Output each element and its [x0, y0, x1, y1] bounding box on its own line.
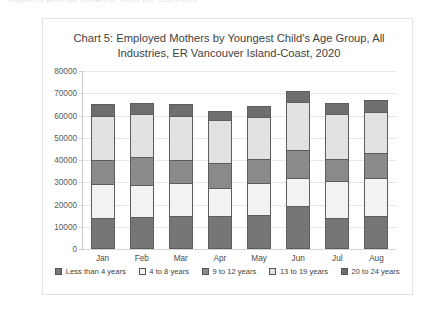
bar-segment[interactable]: [91, 218, 115, 249]
y-axis-tick-label: 0: [72, 245, 77, 254]
bar-segment[interactable]: [130, 103, 154, 114]
bar-jun[interactable]: Jun: [286, 91, 310, 249]
legend-label: 20 to 24 years: [352, 267, 400, 276]
legend-item[interactable]: 20 to 24 years: [341, 267, 400, 276]
legend-swatch-icon: [341, 268, 348, 275]
bar-segment[interactable]: [208, 216, 232, 249]
bar-segment[interactable]: [169, 160, 193, 183]
bar-segment[interactable]: [169, 116, 193, 161]
gridline: [83, 71, 396, 72]
bar-segment[interactable]: [208, 111, 232, 120]
bar-feb[interactable]: Feb: [130, 103, 154, 249]
y-axis-tick-label: 80000: [54, 67, 77, 76]
cut-off-page-header: Mothers with no children from the Statis…: [0, 0, 425, 11]
bar-segment[interactable]: [364, 178, 388, 216]
y-tick-mark: [79, 71, 83, 72]
bar-segment[interactable]: [169, 216, 193, 249]
bar-segment[interactable]: [364, 216, 388, 249]
y-axis-tick-label: 70000: [54, 89, 77, 98]
bar-segment[interactable]: [91, 104, 115, 115]
gridline: [83, 93, 396, 94]
legend-swatch-icon: [269, 268, 276, 275]
bar-segment[interactable]: [286, 102, 310, 150]
bar-jan[interactable]: Jan: [91, 104, 115, 249]
bar-segment[interactable]: [169, 183, 193, 215]
bar-mar[interactable]: Mar: [169, 104, 193, 249]
bar-segment[interactable]: [325, 181, 349, 218]
legend-swatch-icon: [202, 268, 209, 275]
chart-legend: Less than 4 years4 to 8 years9 to 12 yea…: [43, 267, 412, 276]
x-axis-label-aug: Aug: [353, 254, 399, 263]
bar-segment[interactable]: [247, 159, 271, 183]
legend-label: 13 to 19 years: [280, 267, 328, 276]
legend-label: Less than 4 years: [66, 267, 126, 276]
bar-segment[interactable]: [208, 188, 232, 216]
chart-title: Chart 5: Employed Mothers by Youngest Ch…: [65, 31, 393, 61]
bar-segment[interactable]: [91, 116, 115, 161]
bar-segment[interactable]: [130, 157, 154, 185]
y-tick-mark: [79, 138, 83, 139]
bar-segment[interactable]: [91, 160, 115, 184]
legend-item[interactable]: 4 to 8 years: [139, 267, 189, 276]
bar-may[interactable]: May: [247, 106, 271, 249]
bar-apr[interactable]: Apr: [208, 111, 232, 249]
y-tick-mark: [79, 227, 83, 228]
bar-segment[interactable]: [325, 114, 349, 159]
bar-segment[interactable]: [286, 178, 310, 206]
y-tick-mark: [79, 93, 83, 94]
legend-label: 4 to 8 years: [149, 267, 189, 276]
y-axis-tick-label: 40000: [54, 156, 77, 165]
bar-segment[interactable]: [130, 217, 154, 249]
legend-swatch-icon: [139, 268, 146, 275]
bar-segment[interactable]: [364, 100, 388, 112]
bar-segment[interactable]: [286, 91, 310, 102]
bar-jul[interactable]: Jul: [325, 103, 349, 249]
legend-label: 9 to 12 years: [212, 267, 256, 276]
bar-segment[interactable]: [364, 112, 388, 153]
bar-segment[interactable]: [208, 163, 232, 187]
gridline: [83, 249, 396, 250]
bar-segment[interactable]: [130, 185, 154, 217]
chart-card: Chart 5: Employed Mothers by Youngest Ch…: [42, 18, 413, 295]
bar-segment[interactable]: [286, 150, 310, 178]
y-tick-mark: [79, 116, 83, 117]
y-axis-tick-label: 30000: [54, 178, 77, 187]
y-tick-mark: [79, 249, 83, 250]
bar-segment[interactable]: [325, 103, 349, 114]
bar-segment[interactable]: [247, 215, 271, 249]
bar-segment[interactable]: [247, 106, 271, 117]
bar-segment[interactable]: [247, 117, 271, 159]
legend-item[interactable]: Less than 4 years: [55, 267, 125, 276]
bar-segment[interactable]: [364, 153, 388, 177]
bar-segment[interactable]: [247, 183, 271, 214]
ghost-header-left: Mothers with no children: [8, 0, 115, 4]
legend-item[interactable]: 9 to 12 years: [202, 267, 256, 276]
legend-swatch-icon: [55, 268, 62, 275]
bar-aug[interactable]: Aug: [364, 100, 388, 249]
bar-segment[interactable]: [169, 104, 193, 115]
y-tick-mark: [79, 182, 83, 183]
plot-area: 0100002000030000400005000060000700008000…: [83, 71, 396, 249]
bar-segment[interactable]: [325, 159, 349, 181]
bar-segment[interactable]: [91, 184, 115, 217]
y-axis-tick-label: 50000: [54, 133, 77, 142]
bar-segment[interactable]: [286, 206, 310, 249]
y-tick-mark: [79, 205, 83, 206]
y-axis-tick-label: 10000: [54, 222, 77, 231]
bar-segment[interactable]: [130, 114, 154, 156]
ghost-header-right: from the Statistics: [120, 0, 197, 4]
y-axis-tick-label: 60000: [54, 111, 77, 120]
legend-item[interactable]: 13 to 19 years: [269, 267, 328, 276]
y-tick-mark: [79, 160, 83, 161]
y-axis-tick-label: 20000: [54, 200, 77, 209]
bar-segment[interactable]: [208, 120, 232, 163]
bar-segment[interactable]: [325, 218, 349, 249]
